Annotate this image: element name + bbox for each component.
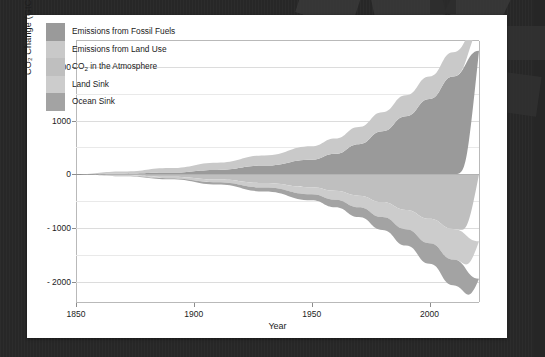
y-axis-tick-mark xyxy=(72,174,76,175)
x-axis-tick-mark xyxy=(430,303,431,307)
chart-card: CO₂ Change (GtCO₂) 200010000- 1000- 2000… xyxy=(27,15,507,338)
legend-swatch xyxy=(46,23,65,41)
x-axis-tick-mark xyxy=(76,303,77,307)
x-axis-tick-mark xyxy=(194,303,195,307)
legend-swatch xyxy=(46,58,65,76)
x-axis-tick-label: 1850 xyxy=(67,309,86,319)
background-shape xyxy=(430,0,456,14)
legend-item-label: Ocean Sink xyxy=(72,93,175,111)
x-axis-tick-label: 1950 xyxy=(302,309,321,319)
background-shape xyxy=(505,26,545,60)
legend-labels: Emissions from Fossil FuelsEmissions fro… xyxy=(72,23,175,111)
x-axis-tick-mark xyxy=(312,303,313,307)
chart-figure: CO₂ Change (GtCO₂) 200010000- 1000- 2000… xyxy=(27,15,507,338)
x-axis-title: Year xyxy=(268,321,286,331)
y-axis-tick-mark xyxy=(72,121,76,122)
x-axis-tick-label: 1900 xyxy=(184,309,203,319)
x-axis-tick-label: 2000 xyxy=(420,309,439,319)
legend-swatch xyxy=(46,41,65,59)
y-axis-title: CO₂ Change (GtCO₂) xyxy=(23,0,33,75)
y-axis-tick-mark xyxy=(72,228,76,229)
legend: Emissions from Fossil FuelsEmissions fro… xyxy=(46,23,175,111)
y-axis-tick-label: - 2000 xyxy=(47,277,71,287)
legend-item-label: Land Sink xyxy=(72,76,175,94)
y-axis-tick-mark xyxy=(72,282,76,283)
legend-swatches xyxy=(46,23,65,111)
y-axis-tick-label: - 1000 xyxy=(47,223,71,233)
y-axis-tick-label: 0 xyxy=(66,169,71,179)
legend-swatch xyxy=(46,76,65,94)
legend-item-label: Emissions from Land Use xyxy=(72,41,175,59)
legend-item-label: CO2 in the Atmosphere xyxy=(72,58,175,76)
legend-item-label: Emissions from Fossil Fuels xyxy=(72,23,175,41)
y-axis-tick-label: 1000 xyxy=(52,116,71,126)
legend-swatch xyxy=(46,93,65,111)
